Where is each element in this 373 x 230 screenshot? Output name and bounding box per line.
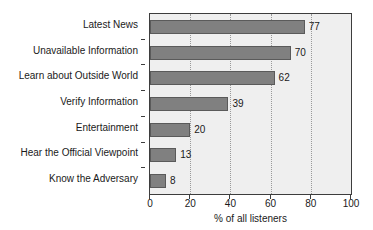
category-label: Verify Information [60, 97, 138, 107]
category-label: Entertainment [76, 123, 138, 133]
bar [150, 46, 291, 60]
y-axis-tick [141, 142, 145, 143]
bar-value-label: 39 [232, 99, 243, 109]
bar [150, 71, 275, 85]
bar [150, 20, 305, 34]
category-label: Know the Adversary [49, 174, 138, 184]
y-axis-tick [141, 116, 145, 117]
x-axis-title: % of all listeners [149, 214, 352, 224]
bar-value-label: 62 [279, 73, 290, 83]
bar [150, 123, 190, 137]
bar-series: 7770623920138 [150, 14, 351, 194]
x-axis-tick-label: 20 [185, 199, 196, 209]
x-axis-tick-label: 40 [225, 199, 236, 209]
x-axis-tick-labels: 020406080100 [0, 199, 373, 213]
bar-value-label: 70 [295, 48, 306, 58]
bar-chart: 7770623920138 Latest NewsUnavailable Inf… [0, 0, 373, 230]
x-axis-tick-label: 0 [147, 199, 153, 209]
y-axis-tick [141, 64, 145, 65]
category-label: Learn about Outside World [19, 71, 138, 81]
clipped-chart-title [0, 0, 373, 1]
bar-value-label: 13 [180, 150, 191, 160]
y-axis-tick [141, 90, 145, 91]
category-axis: Latest NewsUnavailable InformationLearn … [0, 13, 145, 195]
category-label: Unavailable Information [33, 46, 138, 56]
category-label: Latest News [83, 20, 138, 30]
y-axis-tick [141, 167, 145, 168]
bar [150, 148, 176, 162]
x-axis-tick-label: 100 [343, 199, 360, 209]
x-axis-tick-label: 60 [265, 199, 276, 209]
x-axis-tick-label: 80 [305, 199, 316, 209]
category-label: Hear the Official Viewpoint [21, 148, 138, 158]
bar [150, 174, 166, 188]
bar-value-label: 20 [194, 125, 205, 135]
plot-area: 7770623920138 [149, 13, 352, 195]
y-axis-tick [141, 39, 145, 40]
bar [150, 97, 228, 111]
bar-value-label: 77 [309, 22, 320, 32]
bar-value-label: 8 [170, 176, 176, 186]
